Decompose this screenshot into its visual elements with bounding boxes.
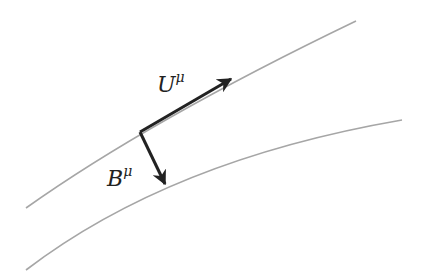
B-vector-arrow	[140, 132, 165, 184]
upper-worldline	[26, 21, 356, 208]
U-vector-arrow	[140, 79, 231, 132]
lower-worldline	[26, 120, 402, 270]
U-vector-label: Uμ	[157, 72, 185, 96]
B-vector-label: Bμ	[107, 166, 132, 190]
diagram-canvas: Uμ Bμ	[0, 0, 429, 278]
diagram-svg	[0, 0, 429, 278]
